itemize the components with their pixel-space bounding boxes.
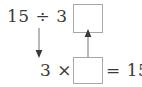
down-arrow-icon <box>36 28 43 58</box>
fact-family-diagram: 15 ÷ 3 = 3 × = 15 <box>0 0 142 87</box>
division-answer-box[interactable] <box>73 4 103 33</box>
multiplication-answer-box[interactable] <box>73 57 103 84</box>
multiplication-right-expression: = 15 <box>106 62 142 79</box>
multiplication-left-expression: 3 × <box>40 62 72 79</box>
up-arrow-icon <box>85 29 92 57</box>
